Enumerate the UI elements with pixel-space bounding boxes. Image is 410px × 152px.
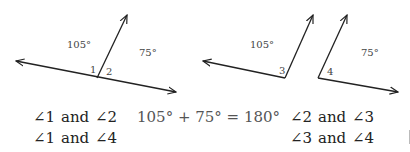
angle-4-label: 4 — [327, 66, 333, 77]
and-text: and — [61, 129, 89, 147]
figure-linear-pair: 105° 75° 1 2 — [16, 15, 176, 92]
angle-105-label: 105° — [67, 39, 91, 50]
angle-2-label: 2 — [106, 66, 112, 77]
ray-3a — [203, 61, 285, 78]
angle-3: ∠3 — [352, 108, 374, 126]
angle-2: ∠2 — [290, 108, 312, 126]
ray-3b — [285, 15, 313, 78]
angle-4: ∠4 — [95, 129, 117, 147]
ray-4b — [318, 78, 398, 92]
and-text: and — [318, 108, 346, 126]
angle-1: ∠1 — [33, 108, 55, 126]
and-text: and — [318, 129, 346, 147]
angle-3: ∠3 — [290, 129, 312, 147]
angle-2: ∠2 — [95, 108, 117, 126]
angle-3-label: 3 — [279, 65, 285, 76]
angle-75-label: 75° — [139, 47, 157, 58]
angle-1: ∠1 — [33, 129, 55, 147]
angle-4: ∠4 — [352, 129, 374, 147]
figure-separate-angles: 105° 75° 3 4 — [203, 15, 398, 92]
angle-105-label-2: 105° — [250, 39, 274, 50]
angle-75-label-2: 75° — [361, 47, 379, 58]
equation: 105° + 75° = 180° — [137, 108, 280, 126]
angle-1-label: 1 — [90, 64, 96, 75]
and-text: and — [61, 108, 89, 126]
